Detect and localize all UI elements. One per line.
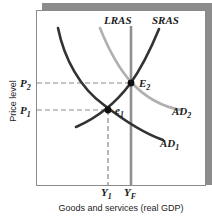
ad1-label: AD1 — [160, 137, 179, 152]
lras-label: LRAS — [104, 14, 132, 26]
equilibrium-label-e2-sub: 2 — [146, 83, 150, 92]
x-tick-yf-main: Y — [124, 186, 131, 198]
ad1-label-sub: 1 — [175, 143, 179, 152]
equilibrium-point-e1 — [105, 107, 112, 114]
x-axis-title: Goods and services (real GDP) — [36, 203, 206, 213]
y-tick-p1-sub: 1 — [27, 110, 31, 119]
y-tick-p2-sub: 2 — [27, 83, 31, 92]
equilibrium-label-e1: e1 — [115, 104, 124, 119]
ad2-label: AD2 — [172, 105, 191, 120]
y-tick-p1-main: P — [20, 104, 27, 116]
ad2-label-sub: 2 — [187, 111, 191, 120]
equilibrium-point-e2 — [128, 80, 135, 87]
ad1-label-main: AD — [160, 137, 175, 149]
ad2-label-main: AD — [172, 105, 187, 117]
x-tick-y1-main: Y — [101, 186, 108, 198]
sras-label: SRAS — [152, 14, 179, 26]
equilibrium-label-e2: E2 — [139, 77, 150, 92]
y-tick-p2: P2 — [20, 77, 31, 92]
y-axis-title: Price level — [8, 66, 18, 136]
equilibrium-label-e1-sub: 1 — [120, 110, 124, 119]
y-tick-p2-main: P — [20, 77, 27, 89]
x-tick-yf-sub: F — [131, 192, 136, 201]
x-tick-yf: YF — [124, 186, 136, 201]
x-tick-y1-sub: 1 — [108, 192, 112, 201]
x-tick-y1: Y1 — [101, 186, 112, 201]
ad-as-diagram-figure: Price level Goods and services (real GDP… — [0, 0, 212, 217]
y-tick-p1: P1 — [20, 104, 31, 119]
